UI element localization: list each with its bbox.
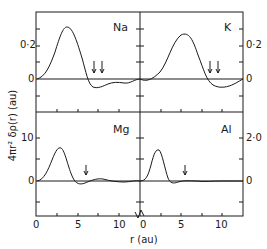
x-axis-label: r (au)	[130, 235, 158, 245]
panel-label-na: Na	[113, 23, 128, 33]
panel-label-al: Al	[221, 125, 232, 135]
panel-label-mg: Mg	[113, 125, 129, 135]
xtick-right-5: 5	[178, 220, 184, 230]
ytick-right-0.2: 0·2	[246, 40, 262, 50]
ytick-left-0.2: 0·2	[20, 40, 36, 50]
left-y-ticks	[36, 29, 40, 202]
ytick-left-0-top: 0	[28, 74, 34, 84]
xtick-right-0: 0	[140, 220, 146, 230]
ytick-right-2.0: 2·0	[246, 133, 262, 143]
ytick-right-0-top: 0	[246, 74, 252, 84]
ytick-left-0-bottom: 0	[28, 176, 34, 186]
xtick-right-10: 10	[215, 220, 228, 230]
panel-label-k: K	[224, 23, 231, 33]
ytick-left-10: 10	[21, 133, 34, 143]
xtick-left-5: 5	[75, 220, 81, 230]
y-axis-label: 4πr² δρ(r) (au)	[7, 76, 18, 176]
ytick-right-0-bottom: 0	[246, 176, 252, 186]
xtick-left-10: 10	[113, 220, 126, 230]
curve-al	[140, 150, 243, 183]
curve-mg	[37, 148, 140, 184]
xtick-left-0: 0	[33, 220, 39, 230]
right-y-ticks	[239, 29, 243, 202]
